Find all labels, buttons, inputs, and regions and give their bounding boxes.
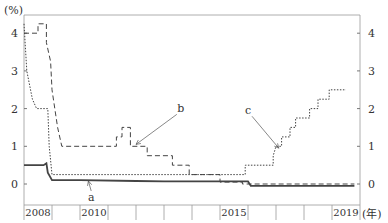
x-axis: 2008201020152019	[25, 205, 358, 220]
annotation-label-c: c	[245, 104, 251, 117]
annotation-label-b: b	[177, 102, 184, 115]
series-c-line	[24, 24, 346, 175]
x-tick-label: 2015	[221, 207, 246, 218]
y-tick-label: 0	[368, 178, 375, 191]
y-axis-left: 01234	[11, 27, 27, 191]
x-tick-label: 2008	[25, 207, 50, 218]
y-tick-label: 4	[11, 27, 18, 40]
x-tick-label: 2019	[333, 207, 358, 218]
annotation-arrow-b	[136, 114, 177, 144]
annotation-label-a: a	[88, 191, 95, 204]
y-axis-unit-label: (%)	[4, 4, 23, 17]
series-b-line	[24, 24, 354, 184]
y-tick-label: 1	[11, 140, 18, 153]
y-tick-label: 3	[11, 65, 18, 78]
series-lines	[24, 24, 354, 186]
x-axis-unit-label: (年)	[362, 207, 382, 221]
x-tick-label: 2010	[81, 207, 106, 218]
y-tick-label: 1	[368, 140, 375, 153]
y-tick-label: 3	[368, 65, 375, 78]
line-annotations: abc	[88, 102, 279, 204]
annotation-arrow-c	[252, 116, 279, 148]
y-tick-label: 0	[11, 178, 18, 191]
policy-rate-line-chart: 01234 01234 2008201020152019 abc (%) (年)	[0, 0, 388, 223]
y-tick-label: 4	[368, 27, 375, 40]
y-tick-label: 2	[11, 103, 18, 116]
y-tick-label: 2	[368, 103, 375, 116]
